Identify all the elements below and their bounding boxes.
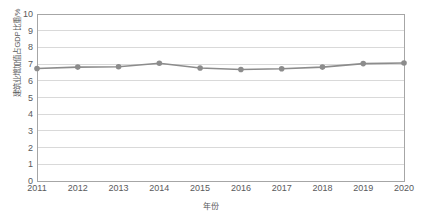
data-point [279, 66, 285, 72]
data-point [157, 60, 163, 66]
x-tick-label: 2016 [219, 184, 263, 193]
data-point [238, 67, 244, 73]
data-point [360, 61, 366, 67]
data-markers [34, 60, 407, 72]
x-tick-label: 2012 [56, 184, 100, 193]
data-point [197, 65, 203, 71]
data-point [34, 66, 40, 72]
line-chart: 建筑业增加值占GDP比重/% 0 1 2 3 4 5 6 7 8 9 10 20… [0, 0, 421, 220]
x-tick-label: 2019 [341, 184, 385, 193]
x-axis-title: 年份 [0, 200, 421, 211]
gridlines [37, 31, 404, 165]
data-point [116, 64, 122, 70]
data-point [75, 64, 81, 70]
x-tick-label: 2017 [260, 184, 304, 193]
x-tick-label: 2013 [97, 184, 141, 193]
x-tick-label: 2020 [382, 184, 421, 193]
x-tick-label: 2018 [300, 184, 344, 193]
data-point [320, 64, 326, 70]
x-tick-label: 2014 [137, 184, 181, 193]
x-tick-label: 2011 [15, 184, 59, 193]
data-point [401, 60, 407, 66]
x-tick-label: 2015 [178, 184, 222, 193]
